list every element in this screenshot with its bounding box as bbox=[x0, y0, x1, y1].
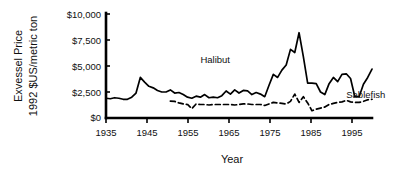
x-axis-tick-labels: 1935 1945 1955 1965 1975 1985 1995 bbox=[95, 127, 362, 138]
xtick-label-1935: 1935 bbox=[95, 127, 116, 138]
ytick-label-5000: $5,000 bbox=[72, 61, 101, 72]
x-axis bbox=[106, 118, 372, 123]
ytick-label-0: $0 bbox=[90, 112, 101, 123]
y-axis bbox=[106, 13, 110, 118]
y-axis-title-line2: 1992 $US/metric ton bbox=[27, 16, 39, 116]
xtick-label-1995: 1995 bbox=[341, 127, 362, 138]
y-axis-title-line1: Exvessel Price bbox=[12, 30, 24, 102]
y-axis-tick-labels: $10,000 $7,500 $5,000 $2,500 $0 bbox=[67, 9, 101, 123]
price-line-chart: Exvessel Price 1992 $US/metric ton $10,0… bbox=[0, 0, 404, 174]
ytick-label-7500: $7,500 bbox=[72, 35, 101, 46]
xtick-label-1955: 1955 bbox=[177, 127, 198, 138]
ytick-label-2500: $2,500 bbox=[72, 87, 101, 98]
y-axis-title: Exvessel Price 1992 $US/metric ton bbox=[12, 16, 39, 116]
annotation-sablefish: Sablefish bbox=[346, 89, 385, 100]
annotation-halibut: Halibut bbox=[200, 54, 230, 65]
x-axis-title: Year bbox=[221, 153, 244, 165]
xtick-label-1985: 1985 bbox=[300, 127, 321, 138]
series-lines bbox=[106, 33, 372, 111]
chart-container: Exvessel Price 1992 $US/metric ton $10,0… bbox=[0, 0, 404, 174]
xtick-label-1945: 1945 bbox=[136, 127, 157, 138]
ytick-label-10000: $10,000 bbox=[67, 9, 101, 20]
xtick-label-1965: 1965 bbox=[218, 127, 239, 138]
series-line-halibut bbox=[106, 33, 372, 100]
xtick-label-1975: 1975 bbox=[259, 127, 280, 138]
